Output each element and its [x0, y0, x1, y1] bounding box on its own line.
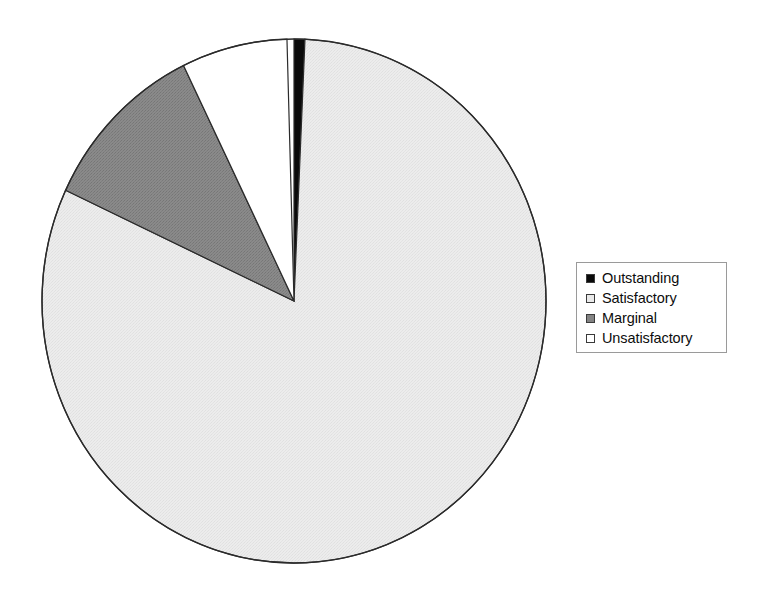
legend-label-outstanding: Outstanding — [602, 268, 679, 288]
legend-swatch-marginal — [586, 314, 595, 323]
legend-item-satisfactory[interactable]: Satisfactory — [586, 288, 726, 308]
chart-legend: Outstanding Satisfactory Marginal Unsati… — [576, 262, 727, 353]
legend-swatch-unsatisfactory — [586, 334, 595, 343]
legend-swatch-outstanding — [586, 274, 595, 283]
legend-item-marginal[interactable]: Marginal — [586, 308, 726, 328]
pie-chart-figure: Outstanding Satisfactory Marginal Unsati… — [0, 0, 760, 596]
legend-item-unsatisfactory[interactable]: Unsatisfactory — [586, 328, 726, 348]
pie-slice-layer — [42, 39, 546, 563]
legend-label-marginal: Marginal — [602, 308, 657, 328]
legend-label-satisfactory: Satisfactory — [602, 288, 677, 308]
legend-label-unsatisfactory: Unsatisfactory — [602, 328, 692, 348]
legend-swatch-satisfactory — [586, 294, 595, 303]
legend-item-outstanding[interactable]: Outstanding — [586, 268, 726, 288]
